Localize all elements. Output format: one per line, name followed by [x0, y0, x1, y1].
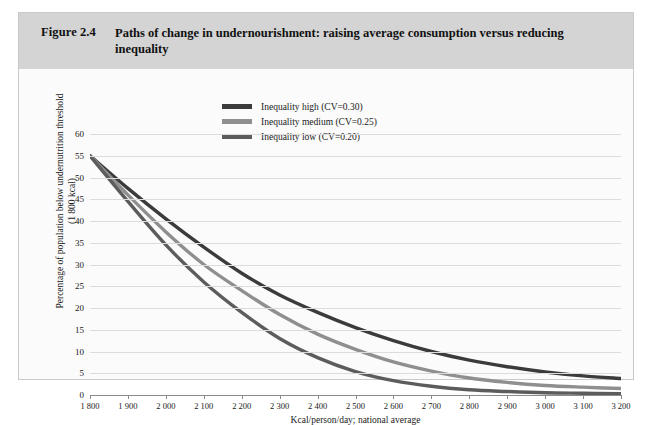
x-axis-tick	[90, 395, 91, 399]
x-axis-tick	[393, 395, 394, 399]
x-axis-tick-label: 2 200	[232, 401, 251, 411]
x-axis-tick-label: 1 800	[80, 401, 99, 411]
x-axis-tick-label: 3 100	[574, 401, 593, 411]
legend-label: Inequality medium (CV=0.25)	[261, 117, 377, 127]
legend-color-swatch	[222, 104, 252, 109]
gridline-horizontal	[90, 221, 621, 222]
legend-item: Inequality high (CV=0.30)	[222, 99, 377, 114]
figure-title: Paths of change in undernourishment: rai…	[115, 25, 611, 57]
x-axis-tick-label: 3 000	[536, 401, 555, 411]
x-axis-tick-label: 2 400	[308, 401, 327, 411]
gridline-horizontal	[90, 199, 621, 200]
x-axis-tick	[621, 395, 622, 399]
y-axis-tick-label: 10	[75, 347, 84, 357]
legend-item: Inequality medium (CV=0.25)	[222, 114, 377, 129]
x-axis-tick	[469, 395, 470, 399]
series-line	[90, 156, 621, 379]
x-axis-tick	[356, 395, 357, 399]
y-axis-tick-label: 45	[75, 194, 84, 204]
y-axis-tick-label: 25	[75, 281, 84, 291]
x-axis-tick-label: 2 600	[384, 401, 403, 411]
x-axis-tick-label: 3 200	[611, 401, 630, 411]
x-axis-tick	[583, 395, 584, 399]
gridline-horizontal	[90, 134, 621, 135]
plot-area: Percentage of population below undernutr…	[19, 69, 633, 379]
series-line	[90, 156, 621, 394]
figure-number: Figure 2.4	[41, 25, 96, 40]
y-axis-tick-label: 40	[75, 216, 84, 226]
series-line	[90, 156, 621, 389]
x-axis-tick-label: 2 100	[194, 401, 213, 411]
x-axis-tick	[431, 395, 432, 399]
legend-color-swatch	[222, 119, 252, 124]
y-axis-tick-label: 35	[75, 238, 84, 248]
y-axis-tick-label: 55	[75, 151, 84, 161]
plot-canvas: Kcal/person/day; national average 051015…	[90, 134, 621, 395]
x-axis-tick-label: 2 800	[460, 401, 479, 411]
x-axis-tick-label: 2 700	[422, 401, 441, 411]
x-axis-tick	[204, 395, 205, 399]
legend-label: Inequality high (CV=0.30)	[261, 102, 363, 112]
gridline-horizontal	[90, 352, 621, 353]
gridline-horizontal	[90, 178, 621, 179]
x-axis-tick-label: 1 900	[118, 401, 137, 411]
gridline-horizontal	[90, 373, 621, 374]
figure-header-band: Figure 2.4 Paths of change in undernouri…	[19, 13, 633, 69]
y-axis-tick-label: 15	[75, 325, 84, 335]
figure-container: Figure 2.4 Paths of change in undernouri…	[18, 12, 634, 380]
x-axis-tick-label: 2 900	[498, 401, 517, 411]
x-axis-tick	[128, 395, 129, 399]
gridline-horizontal	[90, 156, 621, 157]
x-axis-tick-label: 2 500	[346, 401, 365, 411]
gridline-horizontal	[90, 243, 621, 244]
x-axis-title: Kcal/person/day; national average	[90, 415, 621, 425]
x-axis-tick	[280, 395, 281, 399]
x-axis-tick-label: 2 300	[270, 401, 289, 411]
gridline-horizontal	[90, 330, 621, 331]
x-axis-tick	[507, 395, 508, 399]
y-axis-tick-label: 20	[75, 303, 84, 313]
gridline-horizontal	[90, 265, 621, 266]
gridline-horizontal	[90, 286, 621, 287]
x-axis-tick	[166, 395, 167, 399]
y-axis-title-line1: Percentage of population below undernutr…	[55, 93, 65, 308]
y-axis-tick-label: 5	[80, 368, 85, 378]
x-axis-tick	[242, 395, 243, 399]
y-axis-tick-label: 30	[75, 260, 84, 270]
y-axis-tick-label: 60	[75, 129, 84, 139]
y-axis-tick-label: 0	[80, 390, 85, 400]
x-axis-tick-label: 2 000	[156, 401, 175, 411]
x-axis-tick	[545, 395, 546, 399]
y-axis-tick-label: 50	[75, 173, 84, 183]
x-axis-tick	[318, 395, 319, 399]
gridline-horizontal	[90, 308, 621, 309]
